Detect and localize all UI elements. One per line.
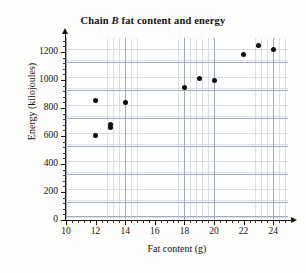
y-minor-tick	[63, 97, 66, 98]
y-minor-tick	[63, 69, 66, 70]
chart-title-prefix: Chain	[81, 15, 112, 26]
y-minor-tick	[63, 142, 66, 143]
x-minor-tick	[113, 220, 114, 223]
x-tick-label-10: 10	[53, 226, 79, 236]
x-minor-tick	[131, 220, 132, 223]
y-minor-tick	[63, 125, 66, 126]
y-tick-200	[61, 192, 66, 193]
chart-title-suffix: fat content and energy	[119, 15, 226, 26]
y-tick-800	[61, 108, 66, 109]
y-tick-label-wrap-200: 200	[0, 186, 58, 196]
x-tick-12	[96, 220, 97, 225]
y-axis-title: Energy (kilojoules)	[26, 22, 37, 182]
data-point	[123, 100, 128, 105]
x-minor-tick	[250, 220, 251, 223]
y-minor-tick	[63, 58, 66, 59]
data-point	[256, 43, 261, 48]
y-minor-tick	[63, 63, 66, 64]
major-gridlines	[66, 38, 288, 220]
data-point	[212, 78, 217, 83]
x-minor-tick	[190, 220, 191, 223]
x-minor-tick	[238, 220, 239, 223]
y-minor-tick	[63, 46, 66, 47]
y-minor-tick	[63, 170, 66, 171]
x-tick-14	[125, 220, 126, 225]
chart-title-italic-chain-letter: B	[112, 15, 119, 26]
x-minor-tick	[107, 220, 108, 223]
x-minor-tick	[72, 220, 73, 223]
y-minor-tick	[63, 114, 66, 115]
y-minor-tick	[63, 181, 66, 182]
x-minor-tick	[78, 220, 79, 223]
x-minor-tick	[291, 220, 292, 223]
y-minor-tick	[63, 74, 66, 75]
x-tick-label-16: 16	[142, 226, 168, 236]
y-minor-tick	[63, 153, 66, 154]
x-minor-tick	[267, 220, 268, 223]
x-axis-title: Fat content (g)	[66, 243, 288, 254]
x-tick-20	[214, 220, 215, 225]
y-minor-tick	[63, 175, 66, 176]
x-minor-tick	[226, 220, 227, 223]
y-tick-label-200: 200	[12, 186, 58, 196]
data-point	[197, 76, 202, 81]
y-tick-0	[61, 220, 66, 221]
minor-gridlines	[66, 38, 288, 220]
x-tick-16	[155, 220, 156, 225]
x-minor-tick	[167, 220, 168, 223]
plot-area	[66, 38, 288, 220]
x-tick-label-12: 12	[83, 226, 109, 236]
x-minor-tick	[178, 220, 179, 223]
data-point	[93, 133, 98, 138]
y-tick-1000	[61, 80, 66, 81]
x-tick-label-18: 18	[171, 226, 197, 236]
y-minor-tick	[63, 147, 66, 148]
y-tick-400	[61, 164, 66, 165]
data-point	[271, 47, 276, 52]
x-tick-label-22: 22	[231, 226, 257, 236]
x-minor-tick	[261, 220, 262, 223]
x-minor-tick	[102, 220, 103, 223]
y-minor-tick	[63, 86, 66, 87]
y-minor-tick	[63, 130, 66, 131]
y-tick-label-wrap-0: 0	[0, 214, 58, 224]
data-point	[93, 98, 98, 103]
y-minor-tick	[63, 209, 66, 210]
x-minor-tick	[119, 220, 120, 223]
x-tick-22	[244, 220, 245, 225]
data-point	[108, 125, 113, 130]
y-minor-tick	[63, 41, 66, 42]
y-minor-tick	[63, 91, 66, 92]
x-tick-label-24: 24	[260, 226, 286, 236]
y-tick-label-0: 0	[12, 214, 58, 224]
y-minor-tick	[63, 203, 66, 204]
scatter-chart-figure: Chain B fat content and energy 020040060…	[0, 0, 306, 273]
y-tick-600	[61, 136, 66, 137]
x-minor-tick	[90, 220, 91, 223]
x-minor-tick	[285, 220, 286, 223]
y-minor-tick	[63, 102, 66, 103]
x-minor-tick	[84, 220, 85, 223]
x-minor-tick	[161, 220, 162, 223]
x-minor-tick	[137, 220, 138, 223]
x-tick-10	[66, 220, 67, 225]
x-tick-label-14: 14	[112, 226, 138, 236]
data-point	[241, 52, 246, 57]
y-minor-tick	[63, 198, 66, 199]
x-minor-tick	[220, 220, 221, 223]
x-minor-tick	[202, 220, 203, 223]
y-minor-tick	[63, 214, 66, 215]
x-minor-tick	[279, 220, 280, 223]
x-tick-24	[273, 220, 274, 225]
y-tick-1200	[61, 52, 66, 53]
y-axis-arrow-icon	[62, 28, 68, 34]
x-minor-tick	[196, 220, 197, 223]
x-minor-tick	[208, 220, 209, 223]
chart-title: Chain B fat content and energy	[0, 15, 306, 26]
data-point	[182, 85, 187, 90]
x-minor-tick	[232, 220, 233, 223]
y-minor-tick	[63, 186, 66, 187]
y-minor-tick	[63, 119, 66, 120]
x-tick-18	[184, 220, 185, 225]
y-minor-tick	[63, 158, 66, 159]
